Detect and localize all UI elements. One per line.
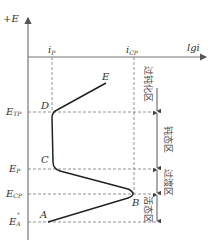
point-b-label: B [131,197,139,208]
etp-label: ETP [5,106,22,117]
region-label-transition: 过渡区 [163,169,174,196]
ecp-label: ECP [5,188,23,199]
region-label-transpassive: 过钝化区 [143,66,154,102]
point-c-label: C [41,154,49,165]
ea-superscript: ° [17,211,20,218]
ip-label: iP [48,44,56,56]
region-label-passive: 钝态区 [163,126,174,153]
icp-label: iCP [126,44,139,56]
x-axis-label: lgi [187,42,200,53]
region-label-active: 活态区 [143,196,154,223]
anodic-polarization-diagram: +E lgi iP iCP ETP EP ECP EA ° A B C D E … [0,0,222,250]
point-d-label: D [40,100,49,111]
y-axis-label: +E [3,13,19,24]
polarization-curve [48,83,133,222]
point-e-label: E [101,71,110,82]
point-a-label: A [39,209,47,220]
ep-label: EP [8,163,21,174]
